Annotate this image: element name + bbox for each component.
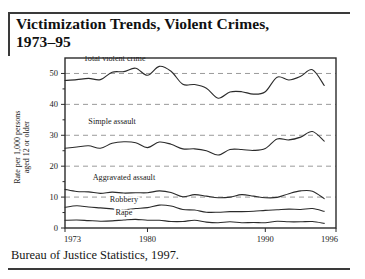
top-divider-rule [8, 12, 350, 14]
figure-title-line-1: Victimization Trends, Violent Crimes, [16, 15, 316, 33]
plot-background [65, 58, 336, 228]
series-label-robbery: Robbery [110, 195, 139, 204]
y-tick-label-50: 50 [50, 68, 59, 78]
figure-title-line-2: 1973–95 [16, 33, 316, 51]
chart-area: Rate per 1,000 persons aged 12 or older … [0, 56, 365, 242]
y-tick-label-20: 20 [50, 161, 59, 171]
bottom-divider-rule [8, 268, 350, 270]
x-tick-label-1990: 1990 [257, 234, 274, 242]
x-tick-label-1980: 1980 [139, 234, 156, 242]
series-label-total-violent-crime: Total violent crime [83, 56, 146, 63]
y-tick-label-10: 10 [50, 192, 59, 202]
x-tick-label-1996: 1996 [321, 234, 338, 242]
figure-title: Victimization Trends, Violent Crimes, 19… [16, 15, 316, 52]
title-left-rule [8, 14, 10, 56]
y-tick-label-30: 30 [50, 130, 59, 140]
y-tick-label-0: 0 [54, 223, 58, 233]
line-chart-svg: 010203040501973198019901996Total violent… [0, 56, 365, 242]
y-tick-label-40: 40 [50, 99, 59, 109]
series-label-simple-assault: Simple assault [88, 117, 136, 126]
figure-root: Victimization Trends, Violent Crimes, 19… [0, 0, 365, 279]
x-tick-label-1973: 1973 [64, 234, 81, 242]
series-label-rape: Rape [115, 208, 132, 217]
source-caption: Bureau of Justice Statistics, 1997. [11, 248, 179, 263]
series-label-aggravated-assault: Aggravated assault [93, 173, 156, 182]
